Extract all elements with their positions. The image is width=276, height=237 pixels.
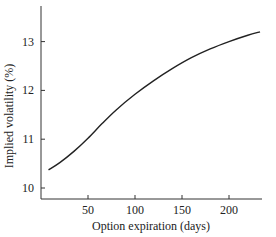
x-tick-label: 200 (220, 203, 238, 217)
y-axis-label: Implied volatility (%) (2, 64, 16, 169)
y-tick-label: 10 (22, 181, 34, 195)
x-tick-label: 100 (126, 203, 144, 217)
x-tick-label: 150 (173, 203, 191, 217)
volatility-curve (49, 32, 260, 170)
x-tick-label: 50 (82, 203, 94, 217)
x-axis-label: Option expiration (days) (92, 219, 210, 233)
y-ticks: 10111213 (22, 35, 45, 195)
volatility-term-structure-chart: 10111213 50100150200 Option expiration (… (0, 0, 276, 237)
y-tick-label: 11 (22, 132, 34, 146)
y-tick-label: 13 (22, 35, 34, 49)
x-ticks: 50100150200 (82, 195, 238, 217)
y-tick-label: 12 (22, 83, 34, 97)
